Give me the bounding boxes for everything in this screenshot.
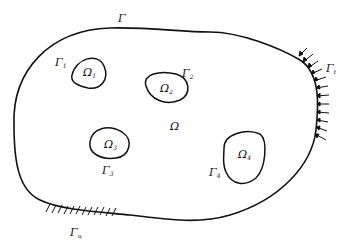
hole-4-domain-label: Ω4 <box>237 148 251 161</box>
hole-3-boundary-label: Γ3 <box>101 164 114 177</box>
domain-diagram: Γ Ω Γ1 Ω1 Γ2 Ω2 Ω3 Γ3 Ω4 Γ4 Γt Γu <box>0 0 346 248</box>
traction-boundary-label: Γt <box>325 62 337 75</box>
traction-arrows <box>299 48 329 140</box>
fixed-boundary-label: Γu <box>69 226 82 239</box>
domain-label: Ω <box>169 120 179 133</box>
hole-1-boundary-label: Γ1 <box>54 56 66 69</box>
hole-4-boundary-label: Γ4 <box>208 166 221 179</box>
hole-2-boundary-label: Γ2 <box>181 67 194 80</box>
hole-2-domain-label: Ω2 <box>159 82 173 95</box>
hole-3-domain-label: Ω3 <box>103 138 117 151</box>
outer-boundary-label: Γ <box>117 12 126 25</box>
hole-1-domain-label: Ω1 <box>82 66 96 79</box>
